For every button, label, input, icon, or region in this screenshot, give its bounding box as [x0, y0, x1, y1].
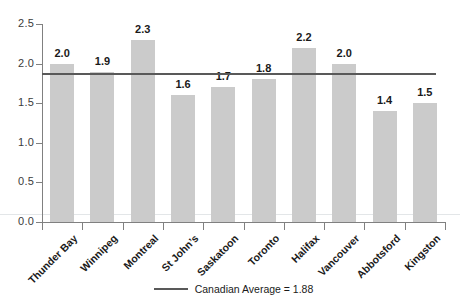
bar-chart-figure: 0.00.51.01.52.02.5 2.01.92.31.61.71.82.2…: [0, 0, 467, 301]
legend-label: Canadian Average = 1.88: [195, 283, 314, 295]
chart-legend: Canadian Average = 1.88: [0, 283, 467, 295]
legend-line-swatch: [154, 288, 188, 290]
x-axis-category-labels: Thunder BayWinnipegMontrealSt John’sSask…: [0, 0, 467, 301]
